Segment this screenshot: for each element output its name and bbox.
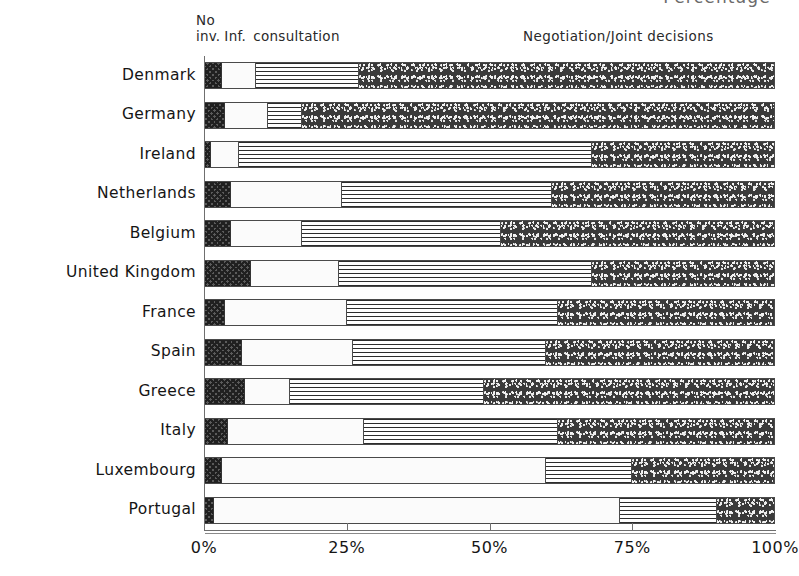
category-label: Greece — [6, 382, 196, 400]
bar-segment — [231, 221, 302, 246]
stacked-bar[interactable] — [204, 220, 775, 247]
bar-segment — [205, 300, 225, 325]
bar-segment — [268, 103, 302, 128]
bar-segment — [302, 103, 774, 128]
bar-row — [204, 339, 775, 366]
bar-row — [204, 141, 775, 168]
bar-row — [204, 378, 775, 405]
x-axis-label: 100% — [751, 538, 799, 557]
category-label: Luxembourg — [6, 461, 196, 479]
stacked-bar[interactable] — [204, 299, 775, 326]
x-axis-label: 25% — [328, 538, 365, 557]
bar-row — [204, 220, 775, 247]
category-label: Italy — [6, 421, 196, 439]
bar-segment — [245, 379, 291, 404]
x-axis-label: 75% — [614, 538, 651, 557]
bar-row — [204, 457, 775, 484]
bar-segment — [256, 63, 358, 88]
x-axis-tick — [347, 523, 348, 530]
category-label: Spain — [6, 342, 196, 360]
bar-segment — [558, 419, 774, 444]
bar-segment — [592, 142, 774, 167]
category-axis-labels: DenmarkGermanyIrelandNetherlandsBelgiumU… — [0, 56, 196, 530]
bar-segment — [239, 142, 592, 167]
bar-segment — [717, 498, 774, 523]
bar-segment — [242, 340, 353, 365]
legend-consultation-label: consultation — [253, 28, 340, 44]
bar-row — [204, 181, 775, 208]
chart-title: Percentage — [0, 0, 771, 7]
stacked-bar[interactable] — [204, 378, 775, 405]
bar-segment — [342, 182, 553, 207]
bar-segment — [353, 340, 546, 365]
stacked-bar[interactable] — [204, 260, 775, 287]
bar-segment — [205, 498, 214, 523]
stacked-bar[interactable] — [204, 418, 775, 445]
stacked-bar[interactable] — [204, 497, 775, 524]
bar-segment — [205, 458, 222, 483]
bar-segment — [302, 221, 501, 246]
bar-segment — [205, 221, 231, 246]
bar-segment — [546, 458, 631, 483]
bar-segment — [620, 498, 717, 523]
legend-noinv-label: inv. — [196, 28, 220, 44]
stacked-bar[interactable] — [204, 62, 775, 89]
category-label: France — [6, 303, 196, 321]
category-label: Belgium — [6, 224, 196, 242]
plot-area — [204, 56, 775, 530]
bar-row — [204, 299, 775, 326]
bar-segment — [228, 419, 365, 444]
bar-segment — [205, 182, 231, 207]
bar-row — [204, 497, 775, 524]
bar-segment — [546, 340, 774, 365]
bar-segment — [222, 63, 256, 88]
x-axis-tick — [632, 523, 633, 530]
category-label: Portugal — [6, 500, 196, 518]
legend-inf-label: Inf. — [224, 28, 246, 44]
bar-segment — [501, 221, 774, 246]
bar-segment — [225, 103, 268, 128]
category-label: Ireland — [6, 145, 196, 163]
bar-segment — [205, 63, 222, 88]
bar-segment — [222, 458, 546, 483]
legend-left-headers: No inv.Inf.consultation — [196, 12, 340, 44]
legend-no-label: No — [196, 12, 340, 28]
bar-segment — [552, 182, 774, 207]
bar-segment — [339, 261, 592, 286]
bar-segment — [205, 340, 242, 365]
stacked-bar[interactable] — [204, 181, 775, 208]
stacked-bar[interactable] — [204, 102, 775, 129]
bar-row — [204, 62, 775, 89]
stacked-bar[interactable] — [204, 339, 775, 366]
bar-segment — [290, 379, 483, 404]
bar-segment — [364, 419, 557, 444]
bar-segment — [205, 103, 225, 128]
category-label: Germany — [6, 105, 196, 123]
bar-segment — [211, 142, 239, 167]
bar-segment — [214, 498, 621, 523]
category-label: United Kingdom — [6, 263, 196, 281]
stacked-bar[interactable] — [204, 141, 775, 168]
bar-segment — [205, 379, 245, 404]
bar-segment — [558, 300, 774, 325]
bar-segment — [205, 261, 251, 286]
x-axis-label: 50% — [471, 538, 508, 557]
bar-row — [204, 418, 775, 445]
x-axis-label: 0% — [191, 538, 217, 557]
x-axis: 0%25%50%75%100% — [204, 530, 775, 570]
bar-segment — [225, 300, 347, 325]
bar-segment — [484, 379, 774, 404]
bar-segment — [231, 182, 342, 207]
category-label: Denmark — [6, 66, 196, 84]
bar-segment — [592, 261, 774, 286]
bar-row — [204, 102, 775, 129]
x-axis-tick — [490, 523, 491, 530]
category-label: Netherlands — [6, 184, 196, 202]
bar-segment — [205, 419, 228, 444]
legend-negotiation-label: Negotiation/Joint decisions — [523, 28, 714, 44]
stacked-bar[interactable] — [204, 457, 775, 484]
bar-segment — [347, 300, 558, 325]
bar-row — [204, 260, 775, 287]
bar-segment — [632, 458, 774, 483]
bar-segment — [359, 63, 774, 88]
